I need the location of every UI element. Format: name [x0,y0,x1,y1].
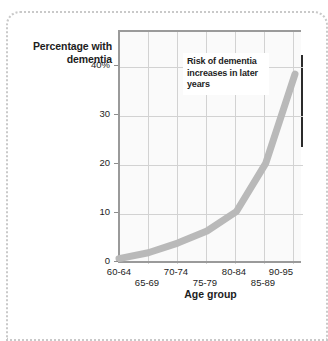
y-tick-label: 0 [70,255,110,266]
x-tick-label-90-95: 90-95 [259,266,303,277]
y-tick-label: 30 [70,108,110,119]
y-tick-mark [114,163,118,164]
x-tick-label-85-89: 85-89 [241,277,285,288]
y-tick-label: 20 [70,157,110,168]
y-tick-label: 40% [70,59,110,70]
y-tick-mark [114,114,118,115]
x-tick-label-80-84: 80-84 [212,266,256,277]
chart-annotation: Risk of dementia increases in later year… [183,53,269,95]
x-tick-label-60-64: 60-64 [97,266,141,277]
y-tick-mark [114,261,118,262]
x-tick-label-75-79: 75-79 [183,277,227,288]
x-tick-label-70-74: 70-74 [154,266,198,277]
y-tick-mark [114,65,118,66]
x-axis-title: Age group [118,288,303,300]
y-tick-label: 10 [70,206,110,217]
y-tick-mark [114,212,118,213]
x-tick-label-65-69: 65-69 [125,277,169,288]
